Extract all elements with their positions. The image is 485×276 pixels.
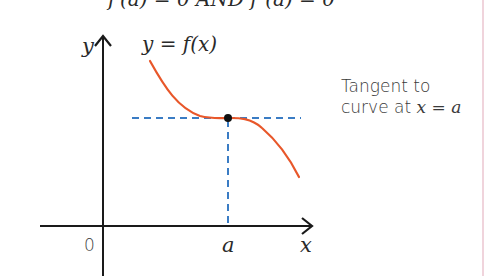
curve-label: y = f(x) [142,32,217,56]
graph-canvas [0,0,485,276]
annotation-line-2-text: curve at [341,97,417,117]
annotation-line-1: Tangent to [341,76,461,97]
x-marker-label: a [222,233,235,257]
annotation-line-2-math: x = a [417,97,462,117]
diagram: f′(a) = 0 AND f″(a) = 0 y y = f(x) 0 a x… [0,0,485,276]
annotation-line-2: curve at x = a [341,97,461,118]
x-axis [40,218,312,234]
y-axis-label: y [82,34,94,58]
origin-label: 0 [84,235,95,255]
inflection-point [224,114,232,122]
page-edge-line [482,0,484,276]
x-axis-label: x [300,233,312,257]
tangent-annotation: Tangent to curve at x = a [341,76,461,118]
y-axis [95,36,111,276]
